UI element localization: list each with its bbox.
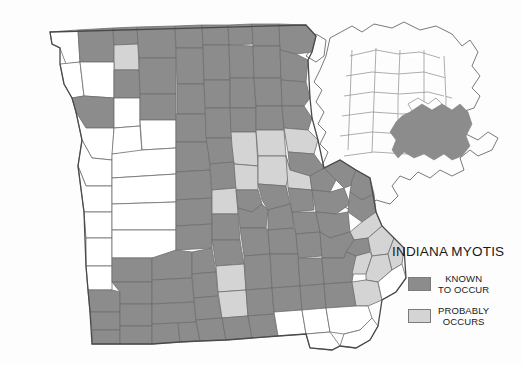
county-linn bbox=[204, 80, 230, 108]
county-audrain bbox=[256, 130, 286, 156]
county-pettis bbox=[176, 170, 212, 200]
county-webster bbox=[192, 272, 218, 298]
legend-item-known: KNOWN TO OCCUR bbox=[408, 273, 520, 295]
county-barry bbox=[120, 326, 152, 344]
county-lafayette bbox=[112, 148, 176, 178]
county-callaway bbox=[258, 156, 290, 186]
county-andrew bbox=[80, 62, 114, 98]
county-phelps bbox=[268, 228, 298, 254]
county-marion bbox=[281, 80, 310, 106]
county-christian bbox=[152, 302, 196, 324]
county-ralls bbox=[282, 106, 312, 130]
county-nodaway bbox=[78, 28, 114, 62]
county-camden bbox=[212, 214, 240, 240]
species-distribution-map: INDIANA MYOTIS KNOWN TO OCCUR PROBABLY O… bbox=[0, 0, 522, 365]
county-laclede bbox=[212, 240, 244, 266]
county-macon bbox=[230, 78, 256, 108]
county-butler-n bbox=[300, 284, 326, 310]
county-harrison bbox=[137, 26, 176, 58]
county-texas bbox=[244, 254, 272, 290]
county-daviess bbox=[139, 58, 176, 94]
county-dallas bbox=[192, 248, 216, 274]
missouri-counties bbox=[50, 24, 406, 350]
county-henry bbox=[112, 202, 176, 230]
legend-block: INDIANA MYOTIS KNOWN TO OCCUR PROBABLY O… bbox=[392, 244, 520, 337]
county-boone bbox=[231, 132, 258, 166]
county-carroll bbox=[176, 114, 208, 142]
legend-swatch-probable bbox=[408, 309, 431, 323]
county-dunklin-n bbox=[302, 308, 330, 334]
county-randolph bbox=[230, 108, 256, 132]
county-morgan bbox=[212, 188, 238, 214]
county-howard bbox=[206, 138, 234, 164]
county-cooper bbox=[210, 162, 236, 190]
county-benton bbox=[176, 198, 212, 226]
county-ray bbox=[140, 120, 176, 150]
county-douglas bbox=[194, 296, 222, 320]
legend-label-probable: PROBABLY OCCURS bbox=[438, 305, 489, 327]
county-howell bbox=[218, 290, 248, 318]
county-clark bbox=[279, 24, 316, 54]
county-stoddard bbox=[324, 282, 356, 308]
legend-item-probable: PROBABLY OCCURS bbox=[408, 305, 520, 327]
county-moniteau bbox=[234, 164, 258, 190]
county-livingston bbox=[177, 84, 206, 114]
county-grundy bbox=[176, 48, 204, 84]
county-clinton bbox=[114, 98, 140, 128]
county-stone bbox=[152, 323, 180, 344]
county-scott bbox=[352, 280, 382, 306]
county-dunklin bbox=[306, 332, 340, 350]
county-greene bbox=[152, 278, 194, 304]
legend-swatch-known bbox=[408, 277, 431, 291]
county-gasconade bbox=[288, 188, 314, 212]
county-hickory bbox=[176, 224, 212, 250]
county-caldwell bbox=[140, 94, 176, 120]
county-shannon bbox=[270, 254, 300, 288]
county-saline bbox=[176, 142, 210, 172]
county-vernon bbox=[86, 238, 112, 266]
county-carter bbox=[272, 286, 302, 312]
county-newton bbox=[90, 312, 120, 330]
county-mcdonald bbox=[92, 330, 120, 344]
county-oregon bbox=[246, 288, 274, 316]
county-franklin bbox=[312, 188, 350, 214]
county-cedar bbox=[112, 258, 152, 282]
county-dent bbox=[296, 232, 322, 258]
county-sullivan bbox=[203, 45, 230, 80]
county-knox bbox=[253, 46, 281, 78]
county-adair bbox=[229, 45, 254, 78]
county-butler bbox=[274, 310, 306, 336]
county-pulaski bbox=[240, 228, 270, 256]
county-shelby bbox=[254, 78, 282, 106]
county-chariton bbox=[205, 108, 232, 138]
county-bates bbox=[84, 212, 112, 238]
county-jasper bbox=[88, 290, 120, 312]
map-title: INDIANA MYOTIS bbox=[392, 244, 520, 259]
county-gentry bbox=[114, 44, 139, 70]
county-dekalb bbox=[114, 70, 140, 98]
county-howell-s bbox=[222, 316, 252, 340]
county-scotland bbox=[252, 24, 280, 46]
county-atchison bbox=[50, 30, 80, 64]
county-lawrence bbox=[120, 304, 152, 326]
county-lewis bbox=[280, 50, 308, 82]
county-wright bbox=[216, 264, 246, 292]
county-johnson bbox=[112, 174, 176, 204]
county-crawford bbox=[292, 212, 320, 234]
county-clay bbox=[112, 126, 142, 154]
county-ozark bbox=[196, 318, 226, 341]
county-reynolds bbox=[298, 258, 324, 286]
county-monroe bbox=[256, 106, 284, 130]
legend-label-known: KNOWN TO OCCUR bbox=[438, 273, 489, 295]
county-pike bbox=[284, 128, 318, 154]
county-ripley bbox=[248, 314, 278, 338]
county-barton bbox=[86, 266, 112, 290]
